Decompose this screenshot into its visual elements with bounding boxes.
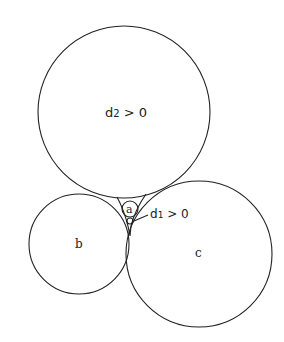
label-c: c [195, 246, 202, 260]
label-d1: d1 > 0 [150, 207, 189, 221]
label-d2: d2 > 0 [105, 105, 147, 120]
circle-packing-diagram: d2 > 0 a b c d1 > 0 [0, 0, 284, 342]
label-a: a [126, 203, 133, 216]
label-b: b [75, 237, 83, 251]
